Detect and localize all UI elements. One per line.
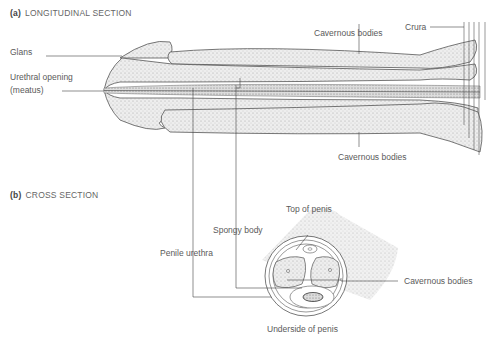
label-top-of-penis: Top of penis <box>286 205 332 214</box>
label-crura: Crura <box>405 23 426 32</box>
label-penile-urethra: Penile urethra <box>160 249 213 258</box>
dorsal-vein <box>303 245 317 253</box>
label-cavernous-bodies-cross: Cavernous bodies <box>404 277 473 286</box>
label-cavernous-bodies-bottom: Cavernous bodies <box>338 153 407 162</box>
section-a-title: LONGITUDINAL SECTION <box>25 8 132 18</box>
section-b-heading: (b)CROSS SECTION <box>10 191 98 200</box>
label-cavernous-bodies-top: Cavernous bodies <box>314 29 383 38</box>
urethra-cross <box>303 293 323 302</box>
label-urethral-opening: Urethral opening <box>10 73 73 82</box>
cavernous-body-right <box>311 257 340 288</box>
section-a-tag: (a) <box>10 8 21 18</box>
glans-shape <box>120 41 172 58</box>
label-spongy-body: Spongy body <box>213 226 263 235</box>
cavernous-body-top <box>168 40 477 68</box>
section-b-tag: (b) <box>10 190 21 200</box>
label-meatus: (meatus) <box>10 86 44 95</box>
section-b-title: CROSS SECTION <box>25 190 98 200</box>
cavernous-body-bottom <box>161 103 482 152</box>
section-a-heading: (a)LONGITUDINAL SECTION <box>10 9 132 18</box>
longitudinal-section <box>46 22 485 297</box>
label-glans: Glans <box>10 48 32 57</box>
anatomy-diagram <box>0 0 502 352</box>
label-underside-of-penis: Underside of penis <box>267 325 338 334</box>
